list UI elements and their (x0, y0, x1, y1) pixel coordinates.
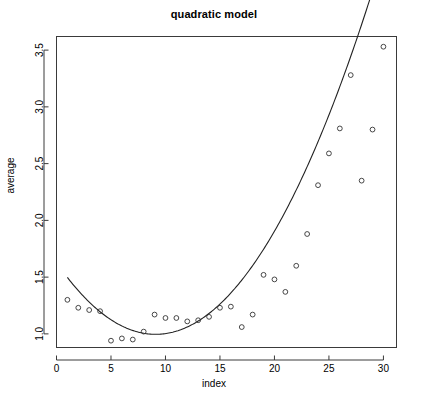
y-axis: 1.01.52.02.53.03.5 (34, 43, 49, 341)
data-point (348, 73, 353, 78)
y-tick-label: 3.5 (34, 43, 45, 57)
data-point (381, 44, 386, 49)
data-point (272, 277, 277, 282)
x-tick-label: 30 (378, 363, 390, 374)
plot-area: 051015202530 1.01.52.02.53.03.5 (0, 0, 428, 403)
x-tick-label: 0 (54, 363, 60, 374)
x-tick-label: 20 (269, 363, 281, 374)
data-point (65, 297, 70, 302)
y-tick-label: 2.5 (34, 156, 45, 170)
data-point (228, 304, 233, 309)
plot-frame (57, 37, 397, 348)
data-point (109, 338, 114, 343)
data-point (283, 289, 288, 294)
data-point (163, 316, 168, 321)
y-tick-label: 1.0 (34, 326, 45, 340)
fit-curve-group (67, 0, 383, 334)
data-point (207, 314, 212, 319)
data-point (294, 263, 299, 268)
data-point (152, 312, 157, 317)
x-tick-label: 10 (160, 363, 172, 374)
quadratic-fit-curve (67, 0, 383, 334)
data-point (87, 308, 92, 313)
data-point (261, 272, 266, 277)
data-point (119, 336, 124, 341)
data-point (250, 312, 255, 317)
data-point (316, 183, 321, 188)
y-tick-label: 1.5 (34, 270, 45, 284)
data-point (359, 178, 364, 183)
x-tick-label: 25 (323, 363, 335, 374)
data-point (130, 337, 135, 342)
y-tick-label: 3.0 (34, 99, 45, 113)
data-point (370, 127, 375, 132)
data-point (174, 316, 179, 321)
x-axis: 051015202530 (54, 356, 390, 375)
data-point (239, 325, 244, 330)
chart-container: quadratic model average index 0510152025… (0, 0, 428, 403)
data-point (305, 232, 310, 237)
x-tick-label: 5 (108, 363, 114, 374)
data-point (337, 126, 342, 131)
data-point (185, 319, 190, 324)
data-point (76, 305, 81, 310)
x-tick-label: 15 (214, 363, 226, 374)
data-point (218, 305, 223, 310)
data-point (327, 151, 332, 156)
y-tick-label: 2.0 (34, 213, 45, 227)
